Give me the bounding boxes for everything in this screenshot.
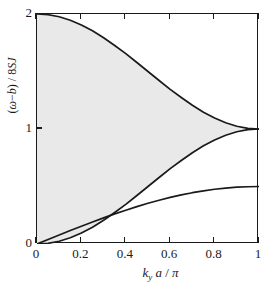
x-tick-mark-top: [213, 13, 214, 19]
shaded-continuum-group: [37, 14, 259, 244]
x-tick-mark: [257, 237, 258, 243]
x-tick-label: 1: [255, 246, 262, 262]
x-tick-label: 0.2: [72, 246, 88, 262]
x-tick-mark: [80, 237, 81, 243]
y-axis-title: (ω−b) / 8SJ: [5, 26, 20, 146]
y-tick-label: 0: [26, 235, 33, 251]
x-tick-mark: [169, 237, 170, 243]
plot-area: [36, 13, 258, 243]
x-tick-mark-top: [35, 13, 36, 19]
spin-wave-dispersion-figure: 00.20.40.60.81 012 ky a / π (ω−b) / 8SJ: [0, 0, 273, 291]
x-tick-mark: [213, 237, 214, 243]
x-axis-title: ky a / π: [0, 265, 273, 282]
x-tick-mark-top: [80, 13, 81, 19]
x-tick-mark: [124, 237, 125, 243]
x-tick-mark-top: [124, 13, 125, 19]
y-tick-mark: [36, 127, 42, 128]
x-tick-mark: [35, 237, 36, 243]
x-tick-label: 0.4: [117, 246, 133, 262]
x-tick-label: 0: [33, 246, 40, 262]
x-tick-label: 0.6: [161, 246, 177, 262]
x-tick-mark-top: [169, 13, 170, 19]
x-tick-label: 0.8: [205, 246, 221, 262]
clipped-title-remnant: [85, 0, 265, 2]
y-tick-label: 2: [26, 5, 33, 21]
plot-canvas: [37, 14, 259, 244]
shaded-continuum-region: [37, 14, 259, 244]
y-tick-label: 1: [26, 120, 33, 136]
x-tick-mark-top: [257, 13, 258, 19]
